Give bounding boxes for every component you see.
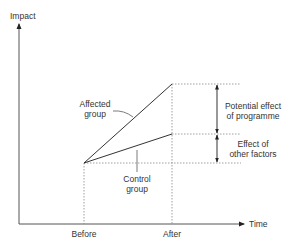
potential-effect-label-line1: Potential effect	[225, 101, 282, 111]
affected-group-label-line2: group	[84, 109, 106, 119]
control-group-label-line1: Control	[123, 174, 151, 184]
control-group-label-line2: group	[126, 184, 148, 194]
affected-group-leader	[113, 111, 133, 117]
impact-diagram: Impact Time Before After Affected group …	[0, 0, 290, 246]
x-axis-label: Time	[249, 219, 268, 229]
x-tick-after: After	[163, 229, 181, 239]
x-tick-before: Before	[71, 229, 96, 239]
control-group-line	[84, 134, 172, 163]
affected-group-line	[84, 84, 172, 163]
other-factors-label-line2: other factors	[229, 149, 276, 159]
potential-effect-label-line2: of programme	[227, 111, 280, 121]
affected-group-label-line1: Affected	[79, 99, 110, 109]
y-axis-label: Impact	[10, 11, 36, 21]
other-factors-label-line1: Effect of	[237, 139, 269, 149]
